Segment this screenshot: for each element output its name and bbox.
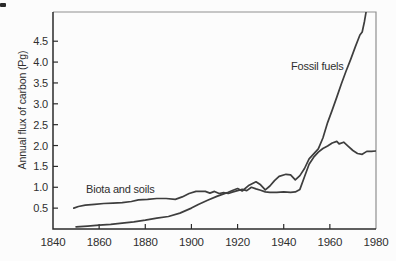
x-tick-label: 1840 (33, 236, 73, 248)
carbon-flux-chart: Annual flux of carbon (Pg) 0.51.01.52.02… (0, 0, 396, 261)
x-tick-label: 1860 (79, 236, 119, 248)
x-tick-label: 1960 (310, 236, 350, 248)
x-tick-label: 1980 (356, 236, 396, 248)
plot-area (0, 0, 396, 261)
x-tick-label: 1940 (264, 236, 304, 248)
y-tick-label: 4.0 (14, 56, 48, 68)
x-tick-label: 1880 (125, 236, 165, 248)
y-tick-label: 0.5 (14, 202, 48, 214)
fossil-fuels-curve-label: Fossil fuels (291, 60, 344, 72)
x-tick-label: 1900 (171, 236, 211, 248)
x-tick-label: 1920 (218, 236, 258, 248)
y-tick-label: 4.5 (14, 35, 48, 47)
y-tick-label: 1.0 (14, 181, 48, 193)
y-tick-label: 2.5 (14, 119, 48, 131)
y-tick-label: 3.5 (14, 77, 48, 89)
biota-and-soils-curve-label: Biota and soils (86, 183, 155, 195)
y-axis-title: Annual flux of carbon (Pg) (16, 51, 28, 170)
biota-and-soils-line (74, 141, 376, 208)
y-tick-label: 1.5 (14, 160, 48, 172)
y-tick-label: 2.0 (14, 140, 48, 152)
y-tick-label: 3.0 (14, 98, 48, 110)
